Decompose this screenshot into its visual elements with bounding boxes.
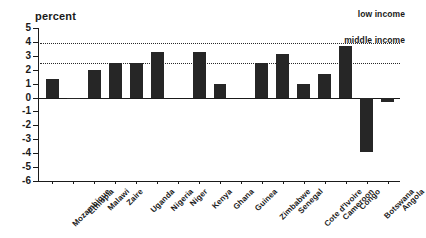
- x-tick: [220, 181, 221, 184]
- y-tick: 1: [33, 84, 38, 85]
- bar: [318, 74, 331, 98]
- y-tick-label: -2: [22, 118, 31, 131]
- x-tick: [73, 181, 74, 184]
- bar: [151, 52, 164, 98]
- x-tick: [241, 181, 242, 184]
- bar: [255, 63, 268, 98]
- bar: [297, 84, 310, 98]
- y-tick: 0: [33, 98, 38, 99]
- bar: [67, 98, 80, 99]
- x-tick: [178, 181, 179, 184]
- x-tick: [199, 181, 200, 184]
- y-tick: -1: [33, 111, 38, 112]
- y-tick-label: -6: [22, 174, 31, 187]
- y-tick: -2: [33, 125, 38, 126]
- y-tick: 4: [33, 42, 38, 43]
- bar: [381, 98, 394, 102]
- zero-baseline: [38, 98, 400, 99]
- x-tick: [367, 181, 368, 184]
- x-tick-label: Ghana: [231, 187, 255, 211]
- x-tick: [262, 181, 263, 184]
- bar: [130, 63, 143, 98]
- bar: [339, 46, 352, 97]
- x-tick: [115, 181, 116, 184]
- y-tick-label: 4: [25, 35, 31, 48]
- y-tick: -4: [33, 153, 38, 154]
- y-tick: -3: [33, 139, 38, 140]
- x-tick-label: Kenya: [210, 187, 234, 211]
- y-tick-label: -5: [22, 160, 31, 173]
- x-tick-label: Guinea: [253, 187, 279, 213]
- y-tick: -5: [33, 167, 38, 168]
- y-tick-label: 5: [25, 21, 31, 34]
- y-axis-line: [38, 28, 39, 181]
- x-tick: [52, 181, 53, 184]
- x-tick: [136, 181, 137, 184]
- y-axis-title: percent: [35, 10, 76, 22]
- bar: [109, 63, 122, 98]
- x-tick: [388, 181, 389, 184]
- y-tick: -6: [33, 181, 38, 182]
- x-tick: [346, 181, 347, 184]
- bar: [88, 70, 101, 98]
- y-tick: 3: [33, 56, 38, 57]
- reference-label-low-income: low income: [358, 9, 405, 19]
- bar: [360, 98, 373, 152]
- y-tick-label: 1: [25, 77, 31, 90]
- x-tick: [94, 181, 95, 184]
- y-tick-label: -4: [22, 146, 31, 159]
- x-tick: [283, 181, 284, 184]
- bar: [214, 84, 227, 98]
- y-tick: 5: [33, 28, 38, 29]
- y-tick-label: -1: [22, 104, 31, 117]
- reference-line-low-income: [40, 43, 400, 44]
- y-tick-label: 3: [25, 49, 31, 62]
- plot-area: 543210-1-2-3-4-5-6 MozambiqueEthiopiaMal…: [38, 28, 400, 181]
- x-tick: [304, 181, 305, 184]
- x-tick: [325, 181, 326, 184]
- y-tick-label: -3: [22, 132, 31, 145]
- x-tick: [157, 181, 158, 184]
- y-tick-label: 0: [25, 91, 31, 104]
- bar: [46, 79, 59, 97]
- y-tick: 2: [33, 70, 38, 71]
- y-tick-label: 2: [25, 63, 31, 76]
- bar: [276, 54, 289, 97]
- bar: [193, 52, 206, 98]
